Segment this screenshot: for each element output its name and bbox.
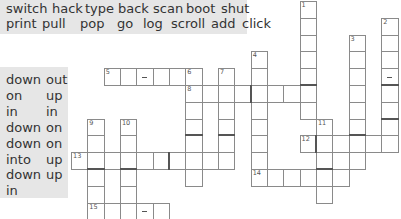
crossword-cell[interactable]: 11 [316, 119, 333, 137]
crossword-cell[interactable]: 4 [251, 51, 268, 69]
crossword-cell[interactable] [381, 35, 398, 53]
crossword-cell[interactable] [153, 68, 170, 86]
crossword-cell[interactable] [169, 152, 186, 170]
crossword-cell[interactable] [300, 102, 317, 120]
crossword-cell[interactable]: 3 [349, 35, 366, 53]
crossword-cell[interactable] [267, 85, 284, 103]
crossword-cell[interactable] [251, 102, 268, 120]
crossword-cell[interactable] [316, 135, 333, 153]
crossword-cell[interactable] [316, 169, 333, 187]
clue-number: 8 [187, 86, 191, 93]
crossword-cell[interactable] [381, 135, 398, 153]
clue-number: 9 [89, 120, 93, 127]
crossword-cell[interactable] [120, 186, 137, 204]
crossword-cell[interactable] [136, 152, 153, 170]
crossword-cell[interactable] [283, 169, 300, 187]
crossword-cell[interactable] [332, 169, 349, 187]
crossword-cell[interactable] [381, 85, 398, 103]
crossword-cell[interactable] [218, 152, 235, 170]
clue-number: 11 [318, 120, 326, 127]
crossword-cell[interactable] [283, 85, 300, 103]
crossword-cell[interactable] [251, 152, 268, 170]
crossword-cell[interactable] [218, 85, 235, 103]
crossword-cell[interactable] [365, 135, 382, 153]
crossword-cell[interactable] [267, 169, 284, 187]
crossword-cell[interactable] [349, 51, 366, 69]
crossword-cell[interactable]: 6 [185, 68, 202, 86]
crossword-cell[interactable] [316, 186, 333, 204]
word-break-line [168, 152, 170, 170]
crossword-cell[interactable]: 2 [381, 18, 398, 36]
clue-number: 7 [220, 69, 224, 76]
clue-number: 5 [106, 69, 110, 76]
crossword-cell[interactable] [120, 203, 137, 219]
crossword-cell[interactable]: 5 [104, 68, 121, 86]
crossword-cell[interactable] [300, 51, 317, 69]
crossword-cell[interactable]: 14 [251, 169, 268, 187]
crossword-cell[interactable] [349, 102, 366, 120]
crossword-cell[interactable]: 9 [87, 119, 104, 137]
crossword-cell[interactable] [87, 186, 104, 204]
crossword-cell[interactable] [381, 119, 398, 137]
clue-number: 1 [302, 2, 306, 9]
crossword-cell[interactable] [104, 203, 121, 219]
crossword-cell[interactable] [251, 68, 268, 86]
crossword-cell[interactable] [300, 169, 317, 187]
crossword-cell[interactable] [251, 135, 268, 153]
word-break-line [316, 168, 333, 170]
crossword-cell[interactable] [251, 85, 268, 103]
crossword-cell[interactable] [185, 152, 202, 170]
word-break-line [349, 134, 366, 136]
crossword-cell[interactable] [185, 102, 202, 120]
crossword-cell[interactable] [349, 85, 366, 103]
crossword-cell[interactable]: 8 [185, 85, 202, 103]
crossword-cell[interactable]: 7 [218, 68, 235, 86]
clue-number: 4 [253, 52, 257, 59]
crossword-cell[interactable] [332, 135, 349, 153]
crossword-cell[interactable] [202, 152, 219, 170]
word-break-line [185, 134, 202, 136]
crossword-cell[interactable] [120, 135, 137, 153]
crossword-cell[interactable] [381, 51, 398, 69]
hyphen-mark [387, 77, 392, 78]
crossword-cell[interactable] [87, 135, 104, 153]
crossword-cell[interactable]: 1 [300, 1, 317, 19]
crossword-cell[interactable] [349, 135, 366, 153]
hyphen-mark [142, 211, 147, 212]
crossword-cell[interactable] [104, 152, 121, 170]
word-break-line [381, 118, 398, 120]
crossword-cell[interactable]: 15 [87, 203, 104, 219]
crossword-cell[interactable] [251, 119, 268, 137]
clue-number: 2 [383, 19, 387, 26]
crossword-cell[interactable] [349, 152, 366, 170]
crossword-cell[interactable] [120, 169, 137, 187]
clue-number: 12 [302, 136, 310, 143]
clue-number: 6 [187, 69, 191, 76]
word-break-line [381, 84, 398, 86]
crossword-cell[interactable] [202, 85, 219, 103]
crossword-cell[interactable] [87, 169, 104, 187]
crossword-cell[interactable] [169, 68, 186, 86]
crossword-cell[interactable] [153, 203, 170, 219]
crossword-cell[interactable]: 10 [120, 119, 137, 137]
crossword-cell[interactable] [218, 135, 235, 153]
clue-number: 15 [89, 204, 97, 211]
clue-number: 10 [122, 120, 130, 127]
crossword-cell[interactable]: 13 [71, 152, 88, 170]
crossword-cell[interactable] [300, 85, 317, 103]
word-break-line [315, 135, 317, 153]
clue-number: 13 [73, 153, 81, 160]
crossword-cell[interactable] [185, 135, 202, 153]
crossword-cell[interactable] [120, 68, 137, 86]
crossword-cell[interactable] [349, 68, 366, 86]
crossword-cell[interactable] [185, 169, 202, 187]
crossword-cell[interactable] [300, 35, 317, 53]
clue-number: 3 [351, 36, 355, 43]
crossword-cell[interactable] [332, 152, 349, 170]
crossword-cell[interactable] [300, 18, 317, 36]
word-break-line [300, 84, 317, 86]
crossword-grid: 123414568791510111213 [0, 0, 401, 219]
word-break-line [218, 134, 235, 136]
crossword-cell[interactable] [218, 102, 235, 120]
word-break-line [250, 85, 252, 103]
